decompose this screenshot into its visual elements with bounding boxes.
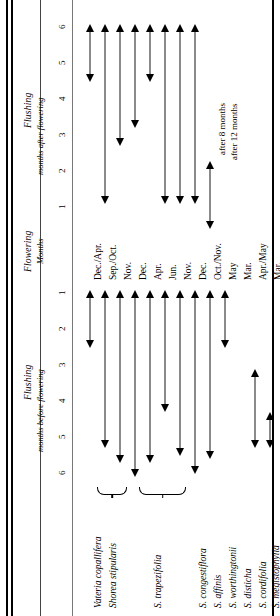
after-arrow-6-arrowhead-down-icon bbox=[176, 196, 184, 204]
before-arrow-12-arrowhead-up-icon bbox=[266, 412, 274, 420]
before-arrow-1-shaft bbox=[104, 295, 105, 443]
frame-line-outer-left bbox=[6, 0, 8, 616]
header-flowering-title: Flowering bbox=[24, 231, 34, 272]
tick-after-1: 1 bbox=[58, 205, 67, 210]
after-arrow-8-arrowhead-down-icon bbox=[206, 221, 214, 229]
flowering-month-label-9: May bbox=[229, 263, 239, 280]
after-arrow-1-shaft bbox=[104, 29, 105, 199]
before-arrow-6-shaft bbox=[179, 295, 180, 451]
before-arrow-11-arrowhead-down-icon bbox=[251, 440, 259, 448]
tick-before-6: 6 bbox=[58, 471, 67, 476]
axis-baseline bbox=[72, 0, 73, 616]
after-arrow-1-arrowhead-up-icon bbox=[101, 24, 109, 32]
flowering-month-label-10: Mar. bbox=[244, 262, 254, 280]
before-arrow-12-arrowhead-down-icon bbox=[266, 440, 274, 448]
species-label-6: S. disticha bbox=[244, 568, 254, 608]
tick-after-6: 6 bbox=[58, 25, 67, 30]
note-after-12-months: after 12 months bbox=[230, 104, 239, 161]
species-label-1: Shorea stipularis bbox=[109, 543, 119, 608]
before-arrow-0-arrowhead-up-icon bbox=[86, 290, 94, 298]
tick-after-3: 3 bbox=[58, 133, 67, 138]
before-arrow-4-arrowhead-down-icon bbox=[146, 455, 154, 463]
grouping-brace-shorea-stipularis bbox=[97, 487, 127, 495]
before-arrow-11-arrowhead-up-icon bbox=[251, 369, 259, 377]
flowering-month-label-7: Dec. bbox=[199, 262, 209, 280]
before-arrow-8-shaft bbox=[209, 295, 210, 454]
before-arrow-2-arrowhead-up-icon bbox=[116, 290, 124, 298]
header-flushing-before-subtitle: months before flowering bbox=[36, 369, 45, 452]
species-label-4: S. affinis bbox=[214, 575, 224, 608]
after-arrow-3-arrowhead-down-icon bbox=[131, 120, 139, 128]
before-arrow-11-shaft bbox=[254, 374, 255, 443]
before-arrow-3-arrowhead-up-icon bbox=[131, 290, 139, 298]
after-arrow-5-shaft bbox=[164, 29, 165, 199]
frame-line-header-divider bbox=[40, 0, 41, 616]
before-arrow-6-arrowhead-down-icon bbox=[176, 448, 184, 456]
after-arrow-0-shaft bbox=[89, 29, 90, 77]
after-arrow-2-shaft bbox=[119, 29, 120, 141]
tick-before-5: 5 bbox=[58, 435, 67, 440]
after-arrow-7-arrowhead-down-icon bbox=[191, 196, 199, 204]
before-arrow-0-shaft bbox=[89, 295, 90, 343]
before-arrow-3-shaft bbox=[134, 295, 135, 472]
after-arrow-4-arrowhead-down-icon bbox=[146, 74, 154, 82]
tick-before-1: 1 bbox=[58, 291, 67, 296]
before-arrow-9-arrowhead-down-icon bbox=[221, 340, 229, 348]
before-arrow-9-shaft bbox=[224, 295, 225, 343]
note-after-8-months: after 8 months bbox=[218, 103, 227, 155]
tick-after-2: 2 bbox=[58, 169, 67, 174]
after-arrow-8-arrowhead-up-icon bbox=[206, 161, 214, 169]
before-arrow-4-arrowhead-up-icon bbox=[146, 290, 154, 298]
before-arrow-1-arrowhead-up-icon bbox=[101, 290, 109, 298]
flowering-month-label-12: Mar. bbox=[274, 262, 280, 280]
after-arrow-5-arrowhead-down-icon bbox=[161, 196, 169, 204]
tick-after-5: 5 bbox=[58, 61, 67, 66]
grouping-brace-s-trapezifolia bbox=[139, 487, 186, 495]
species-label-7: S. cordifolia bbox=[259, 561, 269, 608]
flowering-month-label-2: Nov. bbox=[124, 262, 134, 280]
species-label-3: S. congestiflora bbox=[199, 548, 209, 608]
before-arrow-8-arrowhead-down-icon bbox=[206, 451, 214, 459]
header-flushing-after-subtitle: months after flowering bbox=[36, 98, 45, 175]
flowering-month-label-0: Dec./Apr. bbox=[94, 243, 104, 280]
before-arrow-7-arrowhead-up-icon bbox=[191, 290, 199, 298]
flowering-month-label-6: Nov. bbox=[184, 262, 194, 280]
before-arrow-6-arrowhead-up-icon bbox=[176, 290, 184, 298]
flowering-month-label-5: Jun. bbox=[169, 264, 179, 280]
header-flushing-before-title: Flushing bbox=[24, 365, 34, 400]
flowering-month-label-1: Sep./Oct. bbox=[109, 245, 119, 280]
before-arrow-0-arrowhead-down-icon bbox=[86, 340, 94, 348]
species-label-0: Vateria copallifera bbox=[94, 536, 104, 608]
before-arrow-8-arrowhead-up-icon bbox=[206, 290, 214, 298]
before-arrow-5-arrowhead-up-icon bbox=[161, 290, 169, 298]
after-arrow-4-shaft bbox=[149, 29, 150, 77]
after-arrow-5-arrowhead-up-icon bbox=[161, 24, 169, 32]
flowering-month-label-3: Dec. bbox=[139, 262, 149, 280]
tick-before-2: 2 bbox=[58, 327, 67, 332]
after-arrow-3-arrowhead-up-icon bbox=[131, 24, 139, 32]
species-label-8: S. megistophylla bbox=[272, 545, 280, 608]
header-flushing-after-title: Flushing bbox=[24, 93, 34, 128]
after-arrow-2-arrowhead-down-icon bbox=[116, 138, 124, 146]
after-arrow-4-arrowhead-up-icon bbox=[146, 24, 154, 32]
after-arrow-7-shaft bbox=[194, 29, 195, 199]
tick-after-4: 4 bbox=[58, 97, 67, 102]
species-label-2: S. trapezifolia bbox=[154, 555, 164, 608]
after-arrow-1-arrowhead-down-icon bbox=[101, 196, 109, 204]
tick-before-3: 3 bbox=[58, 363, 67, 368]
before-arrow-7-shaft bbox=[194, 295, 195, 469]
before-arrow-2-shaft bbox=[119, 295, 120, 458]
after-arrow-2-arrowhead-up-icon bbox=[116, 24, 124, 32]
header-flowering-subtitle: Months bbox=[36, 239, 45, 265]
after-arrow-8-shaft bbox=[209, 166, 210, 224]
after-arrow-3-shaft bbox=[134, 29, 135, 123]
before-arrow-5-shaft bbox=[164, 295, 165, 407]
after-arrow-0-arrowhead-down-icon bbox=[86, 74, 94, 82]
frame-line-inner-left bbox=[11, 0, 13, 616]
before-arrow-1-arrowhead-down-icon bbox=[101, 440, 109, 448]
before-arrow-4-shaft bbox=[149, 295, 150, 458]
tick-before-4: 4 bbox=[58, 399, 67, 404]
flowering-month-label-4: Apr. bbox=[154, 263, 164, 280]
before-arrow-3-arrowhead-down-icon bbox=[131, 469, 139, 477]
before-arrow-9-arrowhead-up-icon bbox=[221, 290, 229, 298]
